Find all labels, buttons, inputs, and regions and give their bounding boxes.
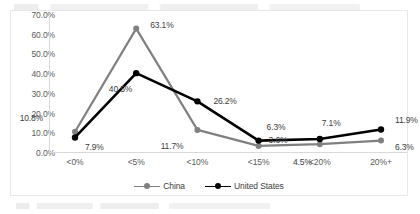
chart-legend: ChinaUnited States [11, 179, 407, 193]
legend-swatch-icon [134, 182, 160, 191]
data-point-label: 10.8% [20, 113, 43, 123]
data-point-label: 11.7% [161, 141, 184, 151]
x-axis-tick-label: <5% [128, 157, 145, 167]
data-point-label: 6.3% [395, 142, 414, 152]
line-series-group [49, 15, 407, 153]
chart-frame: 70.0%60.0%50.0%40.0%30.0%20.0%10.0%0.0% … [10, 10, 408, 196]
series-marker [317, 136, 323, 142]
x-axis: <0%<5%<10%<15%<20%20%+ [49, 157, 407, 171]
x-axis-tick-label: <10% [187, 157, 209, 167]
data-point-label: 6.3% [267, 122, 286, 132]
x-axis-tick-label: <0% [67, 157, 84, 167]
series-marker [194, 98, 200, 104]
x-axis-tick-label: 20%+ [370, 157, 392, 167]
legend-item-united-states[interactable]: United States [205, 181, 284, 191]
plot-area: 10.8%63.1%11.7%3.6%4.5%6.3%7.9%40.5%26.2… [49, 15, 407, 153]
data-point-label: 7.1% [322, 118, 341, 128]
series-marker [133, 26, 139, 32]
data-point-label: 63.1% [150, 20, 173, 30]
cropped-text-below-chart [16, 203, 270, 209]
series-marker [378, 138, 384, 144]
x-axis-tick-label: <20% [309, 157, 331, 167]
data-point-label: 7.9% [85, 142, 104, 152]
screenshot-root: 70.0%60.0%50.0%40.0%30.0%20.0%10.0%0.0% … [0, 0, 420, 214]
data-point-label: 3.6% [269, 135, 288, 145]
series-marker [72, 134, 78, 140]
legend-item-china[interactable]: China [134, 181, 185, 191]
legend-label: United States [234, 181, 284, 191]
data-point-label: 11.9% [395, 115, 418, 125]
series-marker [378, 126, 384, 132]
series-marker [194, 127, 200, 133]
data-point-label: 40.5% [109, 84, 132, 94]
legend-swatch-icon [205, 182, 231, 191]
series-marker [256, 143, 262, 149]
series-marker [133, 70, 139, 76]
data-point-label: 26.2% [213, 96, 236, 106]
series-marker [255, 137, 261, 143]
legend-label: China [163, 181, 185, 191]
x-axis-tick-label: <15% [248, 157, 270, 167]
